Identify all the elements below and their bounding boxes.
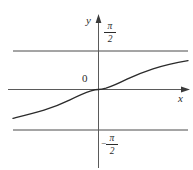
- negative-pi-over-two-numerator: π: [106, 133, 118, 144]
- negative-pi-over-two-sign: −: [101, 139, 106, 148]
- pi-over-two-numerator: π: [104, 21, 116, 32]
- negative-pi-over-two-label: − π 2: [106, 133, 118, 157]
- plot-canvas: [0, 0, 193, 170]
- arctan-graph-figure: y x 0 π 2 − π 2: [0, 0, 193, 170]
- y-axis-label: y: [86, 15, 91, 26]
- pi-over-two-denominator: 2: [104, 34, 116, 45]
- negative-pi-over-two-denominator: 2: [106, 146, 118, 157]
- x-axis-label: x: [178, 93, 183, 104]
- pi-over-two-label: π 2: [104, 21, 116, 45]
- origin-label: 0: [82, 73, 88, 84]
- y-axis-arrowhead: [96, 14, 102, 23]
